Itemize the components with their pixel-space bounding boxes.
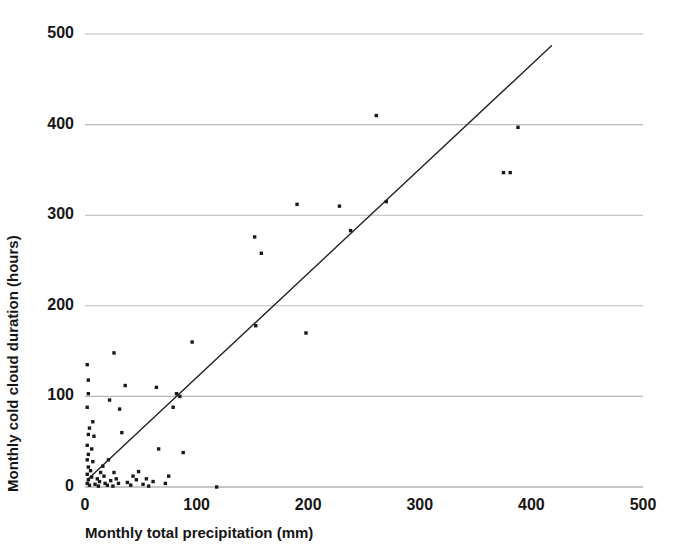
x-tick-label-500: 500 <box>613 496 673 514</box>
data-point <box>171 406 174 409</box>
x-tick-label-300: 300 <box>390 496 450 514</box>
data-point <box>118 407 121 410</box>
data-point <box>164 482 167 485</box>
x-tick-label-100: 100 <box>167 496 227 514</box>
y-tick-label-300: 300 <box>12 205 74 223</box>
x-tick-label-200: 200 <box>278 496 338 514</box>
data-point <box>87 453 90 456</box>
data-point <box>190 340 193 343</box>
data-point <box>155 386 158 389</box>
y-axis-title-label: Monthly cold cloud duration (hours) <box>4 235 21 492</box>
y-tick-label-400: 400 <box>12 115 74 133</box>
data-point <box>135 478 138 481</box>
data-point <box>99 471 102 474</box>
data-point <box>145 477 148 480</box>
data-point <box>178 395 181 398</box>
data-point <box>88 426 91 429</box>
data-point <box>92 435 95 438</box>
scatter-plot-figure: 0100200300400500 0100200300400500 Monthl… <box>0 0 691 552</box>
data-point <box>182 451 185 454</box>
regression-trendline <box>88 46 551 479</box>
data-point <box>87 478 90 481</box>
data-point <box>115 477 118 480</box>
data-point <box>86 363 89 366</box>
x-tick-label-0: 0 <box>55 496 115 514</box>
data-point <box>147 484 150 487</box>
data-point <box>106 483 109 486</box>
data-point <box>516 126 519 129</box>
data-point <box>167 474 170 477</box>
data-point <box>90 447 93 450</box>
data-point <box>107 458 110 461</box>
x-axis-title: Monthly total precipitation (mm) <box>85 524 313 541</box>
x-tick-label-400: 400 <box>501 496 561 514</box>
data-point <box>89 469 92 472</box>
gridlines-group <box>85 34 643 396</box>
data-point <box>112 471 115 474</box>
data-point <box>111 484 114 487</box>
data-point <box>117 482 120 485</box>
data-point <box>295 203 298 206</box>
data-point <box>349 229 352 232</box>
data-point <box>86 458 89 461</box>
data-point <box>304 331 307 334</box>
data-point <box>87 378 90 381</box>
data-point <box>86 406 89 409</box>
data-point <box>87 433 90 436</box>
data-point <box>93 483 96 486</box>
y-tick-label-500: 500 <box>12 24 74 42</box>
data-point <box>375 114 378 117</box>
data-point <box>129 483 132 486</box>
data-point <box>151 480 154 483</box>
y-tick-label-100: 100 <box>12 386 74 404</box>
data-point <box>88 483 91 486</box>
data-point <box>253 235 256 238</box>
data-point <box>338 204 341 207</box>
data-point <box>175 392 178 395</box>
y-tick-label-0: 0 <box>12 477 74 495</box>
data-point <box>123 384 126 387</box>
data-point <box>91 420 94 423</box>
data-point <box>102 474 105 477</box>
data-point <box>108 398 111 401</box>
data-point <box>101 464 104 467</box>
data-point <box>141 483 144 486</box>
data-point <box>112 351 115 354</box>
data-point <box>137 470 140 473</box>
data-point <box>502 171 505 174</box>
data-point <box>385 200 388 203</box>
data-point <box>109 479 112 482</box>
data-point <box>91 460 94 463</box>
data-point <box>98 480 101 483</box>
data-point <box>97 484 100 487</box>
data-point <box>86 473 89 476</box>
data-point <box>157 447 160 450</box>
data-point <box>126 481 129 484</box>
data-point <box>87 392 90 395</box>
regression-line <box>88 46 551 479</box>
data-point <box>87 465 90 468</box>
data-point <box>131 474 134 477</box>
data-point <box>260 252 263 255</box>
data-point <box>508 171 511 174</box>
data-point <box>120 431 123 434</box>
y-tick-label-200: 200 <box>12 296 74 314</box>
data-points-group <box>86 114 520 489</box>
data-point <box>90 475 93 478</box>
data-point <box>86 444 89 447</box>
plot-canvas <box>0 0 691 552</box>
data-point <box>254 324 257 327</box>
data-point <box>215 485 218 488</box>
